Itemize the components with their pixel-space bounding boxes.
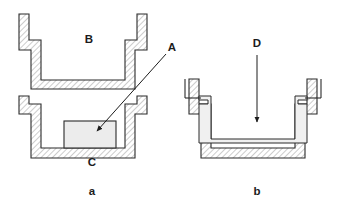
technical-figure: B A C D a b [0,0,337,209]
label-d: D [253,37,261,49]
panel-caption-b: b [253,185,260,197]
label-c: C [88,156,96,168]
inserted-block-c [64,121,116,148]
label-b: B [85,33,93,45]
panel-caption-a: a [89,185,96,197]
figure-canvas: B A C D a b [0,0,337,209]
figure-background [0,0,337,209]
label-a: A [168,41,176,53]
